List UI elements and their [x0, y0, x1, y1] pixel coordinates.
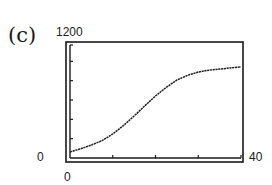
line-chart	[0, 0, 272, 185]
data-line	[70, 67, 241, 152]
